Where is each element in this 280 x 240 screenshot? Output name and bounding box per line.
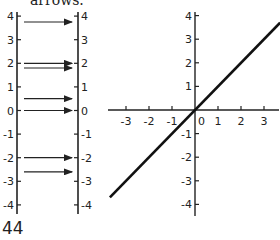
tick-label: -2: [3, 152, 14, 165]
y-tick-label: 4: [185, 10, 192, 23]
caption-text: arrows.: [30, 0, 84, 8]
x-tick-label: 2: [238, 115, 245, 128]
tick-label: 2: [7, 57, 14, 70]
y-tick-label: -4: [181, 198, 192, 211]
x-tick-label: 3: [261, 115, 268, 128]
y-tick-label: -2: [181, 151, 192, 164]
mapping-arrows: [24, 22, 72, 172]
tick-label: 4: [81, 10, 88, 23]
tick-label: 0: [81, 105, 88, 118]
tick-label: 2: [81, 57, 88, 70]
x-tick-label: 0: [198, 115, 205, 128]
x-tick-label: 1: [215, 115, 222, 128]
tick-label: 3: [7, 34, 14, 47]
tick-label: -4: [81, 199, 92, 212]
tick-label: -2: [81, 152, 92, 165]
tick-label: 1: [7, 81, 14, 94]
graph-y-equals-x: -3-2-10123 4321-1-2-3-4: [108, 10, 280, 216]
tick-label: -3: [81, 175, 92, 188]
left-ticks: 43210-1-2-3-4: [3, 10, 21, 212]
tick-label: -1: [3, 128, 14, 141]
mapping-diagram: 43210-1-2-3-4 43210-1-2-3-4: [3, 10, 92, 214]
x-tick-label: -3: [121, 115, 132, 128]
y-tick-label: 3: [185, 33, 192, 46]
x-tick-label: -1: [167, 115, 178, 128]
tick-label: 3: [81, 34, 88, 47]
x-tick-label: -2: [144, 115, 155, 128]
right-ticks: 43210-1-2-3-4: [74, 10, 92, 212]
tick-label: 4: [7, 10, 14, 23]
y-tick-label: -3: [181, 175, 192, 188]
tick-label: -4: [3, 199, 14, 212]
tick-label: -1: [81, 128, 92, 141]
figure: arrows. 43210-1-2-3-4 43210-1-2-3-4 -3-2…: [0, 0, 280, 240]
page-number: 44: [2, 218, 24, 238]
tick-label: 1: [81, 81, 88, 94]
tick-label: 0: [7, 105, 14, 118]
y-tick-label: -1: [181, 128, 192, 141]
y-tick-label: 2: [185, 57, 192, 70]
y-tick-label: 1: [185, 80, 192, 93]
tick-label: -3: [3, 175, 14, 188]
figure-svg: 43210-1-2-3-4 43210-1-2-3-4 -3-2-10123 4…: [0, 0, 280, 240]
